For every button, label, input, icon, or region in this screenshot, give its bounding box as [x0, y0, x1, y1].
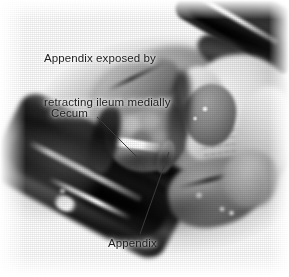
bowel-loop-upper-specular2 [192, 116, 198, 121]
figure-caption: Appendix exposed by retracting ileum med… [44, 22, 171, 138]
bowel-loop-upper-specular [201, 106, 209, 112]
surgical-figure: Appendix exposed by retracting ileum med… [0, 0, 289, 277]
caption-line-1: Appendix exposed by [44, 51, 171, 66]
label-cecum: Cecum [51, 106, 88, 121]
label-appendix: Appendix [108, 236, 157, 251]
